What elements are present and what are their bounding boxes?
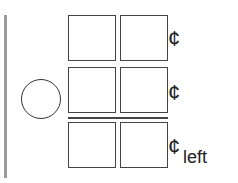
- answer-box-row2-tens[interactable]: [68, 67, 116, 113]
- answer-box-row3-ones[interactable]: [120, 122, 168, 168]
- answer-box-row3-tens[interactable]: [68, 122, 116, 168]
- vertical-bar: [4, 15, 7, 178]
- answer-box-row1-ones[interactable]: [120, 15, 168, 61]
- cent-sign-row1: ¢: [168, 28, 180, 50]
- subtraction-line: [68, 117, 168, 119]
- cent-sign-row2: ¢: [168, 82, 180, 104]
- answer-box-row2-ones[interactable]: [120, 67, 168, 113]
- left-label: left: [183, 148, 207, 166]
- coin-circle: [21, 79, 61, 119]
- answer-box-row1-tens[interactable]: [68, 15, 116, 61]
- cent-sign-row3: ¢: [168, 136, 180, 158]
